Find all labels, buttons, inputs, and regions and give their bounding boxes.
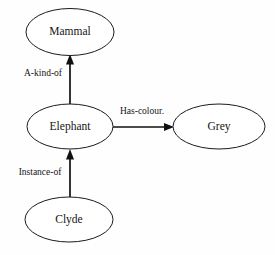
node-grey[interactable]: Grey xyxy=(173,104,265,149)
edge-a-kind-of-label: A-kind-of xyxy=(24,68,63,78)
edge-instance-of: Instance-of xyxy=(19,149,74,197)
edge-a-kind-of: A-kind-of xyxy=(24,54,74,104)
edge-instance-of-label: Instance-of xyxy=(19,167,63,177)
node-elephant[interactable]: Elephant xyxy=(27,104,113,149)
node-mammal-label: Mammal xyxy=(49,25,91,37)
semantic-network-canvas: A-kind-of Has-colour. Instance-of Mammal… xyxy=(0,0,275,255)
edge-has-colour-arrowhead xyxy=(164,123,174,131)
edge-has-colour-label: Has-colour. xyxy=(120,106,164,116)
node-clyde[interactable]: Clyde xyxy=(25,197,113,242)
node-clyde-label: Clyde xyxy=(55,213,82,226)
edge-has-colour: Has-colour. xyxy=(113,106,174,131)
node-grey-label: Grey xyxy=(208,120,231,133)
semantic-network-diagram: A-kind-of Has-colour. Instance-of Mammal… xyxy=(0,0,275,255)
node-mammal[interactable]: Mammal xyxy=(26,9,114,56)
node-elephant-label: Elephant xyxy=(50,120,92,133)
edge-instance-of-arrowhead xyxy=(66,149,74,160)
